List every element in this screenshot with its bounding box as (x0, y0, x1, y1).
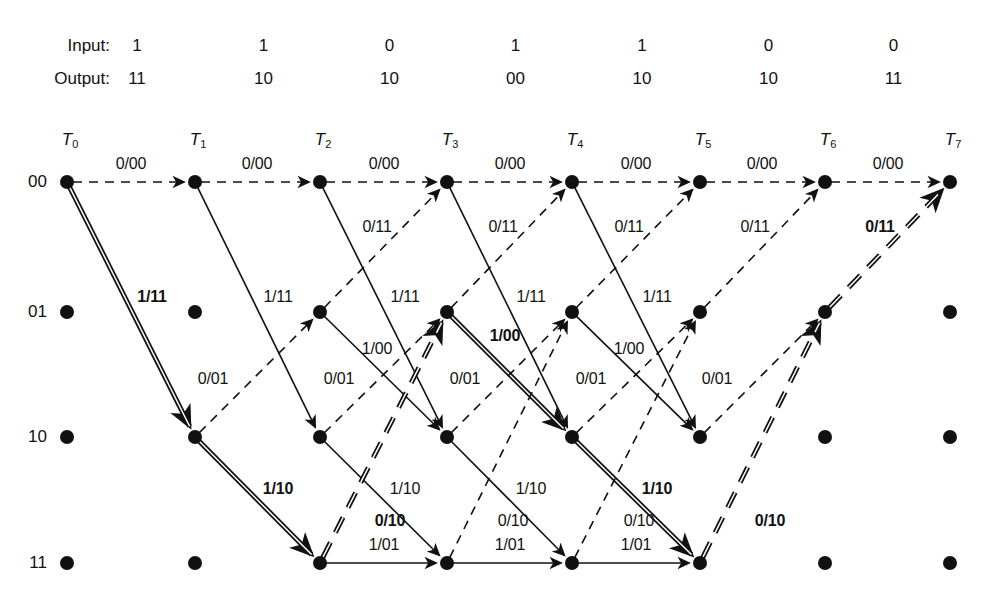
trellis-node-t1-11 (188, 556, 202, 570)
edge-label: 0/11 (740, 218, 769, 236)
edge-label: 1/00 (362, 340, 392, 358)
edge-label: 1/11 (263, 288, 292, 306)
edge-label: 0/10 (755, 512, 785, 530)
edge-label: 0/01 (450, 370, 480, 388)
trellis-node-t6-01 (818, 305, 832, 319)
trellis-node-t6-10 (818, 430, 832, 444)
edge-label: 1/00 (614, 340, 644, 358)
edge-label: 1/01 (369, 536, 399, 554)
edge-label: 0/11 (614, 218, 643, 236)
trellis-node-t1-00 (188, 175, 202, 189)
trellis-node-t4-01 (565, 305, 579, 319)
trellis-node-t0-10 (60, 430, 74, 444)
trellis-node-t5-01 (693, 305, 707, 319)
trellis-node-t7-01 (943, 305, 957, 319)
edge-label: 1/01 (621, 536, 651, 554)
trellis-node-t3-11 (440, 556, 454, 570)
trellis-node-t1-10 (188, 430, 202, 444)
trellis-node-t5-10 (693, 430, 707, 444)
trellis-edge-00-to-10 (198, 187, 316, 427)
trellis-node-t4-11 (565, 556, 579, 570)
trellis-node-t2-11 (313, 556, 327, 570)
trellis-node-t2-10 (313, 430, 327, 444)
trellis-edge-core (199, 441, 311, 554)
trellis-node-t1-01 (188, 305, 202, 319)
trellis-edge-core (829, 191, 942, 308)
trellis-node-t4-00 (565, 175, 579, 189)
edge-label: 0/01 (576, 370, 606, 388)
trellis-node-t0-00 (60, 175, 74, 189)
edge-label: 0/01 (198, 370, 228, 388)
edge-label: 1/10 (516, 480, 546, 498)
edge-label: 1/01 (495, 536, 525, 554)
edge-label: 1/10 (642, 480, 672, 498)
edge-label: 1/11 (516, 288, 545, 306)
trellis-node-t5-00 (693, 175, 707, 189)
edge-label: 0/11 (362, 218, 391, 236)
trellis-node-t7-11 (943, 556, 957, 570)
edge-label: 0/11 (488, 218, 517, 236)
edge-label: 0/00 (495, 155, 525, 173)
edge-label: 0/00 (747, 155, 777, 173)
trellis-node-t3-01 (440, 305, 454, 319)
trellis-diagram: Input: Output: 1101100 11101000101011 T0… (0, 0, 991, 614)
trellis-node-t3-10 (440, 430, 454, 444)
trellis-node-t5-11 (693, 556, 707, 570)
trellis-edge-core (70, 187, 190, 426)
edge-label: 1/11 (137, 288, 166, 306)
edge-label: 1/00 (490, 327, 520, 345)
trellis-edge-01-to-00 (576, 190, 692, 308)
trellis-node-t0-11 (60, 556, 74, 570)
edge-label: 1/10 (263, 480, 293, 498)
trellis-node-t7-00 (943, 175, 957, 189)
trellis-edge-01-to-00 (324, 190, 439, 308)
trellis-node-t4-10 (565, 430, 579, 444)
trellis-node-t2-01 (313, 305, 327, 319)
edge-label: 0/10 (498, 512, 528, 530)
edge-label: 0/10 (624, 512, 654, 530)
edge-label: 0/01 (324, 370, 354, 388)
edge-label: 0/01 (702, 370, 732, 388)
trellis-canvas (0, 0, 991, 614)
edge-label: 0/00 (369, 155, 399, 173)
trellis-node-t6-00 (818, 175, 832, 189)
trellis-node-t3-00 (440, 175, 454, 189)
edge-label: 0/00 (242, 155, 272, 173)
trellis-node-t6-11 (818, 556, 832, 570)
trellis-edge-01-to-00 (451, 190, 564, 308)
edge-label: 0/10 (375, 512, 405, 530)
trellis-node-t0-01 (60, 305, 74, 319)
edge-label: 1/11 (390, 288, 419, 306)
edge-label: 0/00 (116, 155, 146, 173)
trellis-node-t2-00 (313, 175, 327, 189)
edge-label: 0/11 (865, 218, 894, 236)
edge-label: 0/00 (621, 155, 651, 173)
edge-label: 1/10 (390, 480, 420, 498)
trellis-node-t7-10 (943, 430, 957, 444)
edge-label: 0/00 (873, 155, 903, 173)
edge-label: 1/11 (642, 288, 671, 306)
trellis-edge-01-to-00 (704, 190, 817, 308)
